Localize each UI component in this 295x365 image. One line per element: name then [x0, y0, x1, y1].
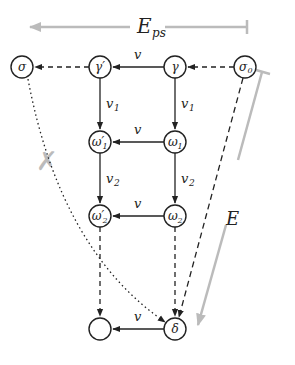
label-v-bottom: v — [134, 309, 142, 324]
svg-text:2: 2 — [101, 216, 107, 225]
svg-text:2: 2 — [176, 216, 182, 225]
edge-sigma-delta-dotted — [28, 79, 165, 322]
e-label: E — [225, 208, 239, 229]
svg-text:1: 1 — [177, 142, 182, 151]
svg-text:σ: σ — [18, 60, 27, 74]
cross-icon: ✗ — [36, 146, 58, 176]
svg-text:2: 2 — [188, 178, 195, 188]
eps-subscript: ps — [152, 26, 166, 40]
label-v2-left: v — [106, 171, 114, 186]
eps-label: E — [136, 14, 152, 38]
svg-text:1: 1 — [114, 103, 120, 113]
svg-text:γ: γ — [171, 60, 179, 74]
svg-text:1: 1 — [102, 142, 107, 151]
label-v-low: v — [134, 196, 142, 211]
svg-text:δ: δ — [171, 322, 178, 336]
svg-text:γ′: γ′ — [95, 60, 105, 74]
label-v1-right: v — [181, 96, 189, 111]
label-v-mid: v — [134, 122, 142, 137]
node-empty — [89, 318, 111, 340]
label-v1-left: v — [106, 96, 114, 111]
eps-arrow: E ps — [30, 14, 247, 40]
diagram-canvas: E ps E ✗ v v v v v 1 v 1 v 2 — [0, 0, 295, 365]
label-v2-right: v — [181, 171, 189, 186]
svg-text:0: 0 — [247, 66, 252, 75]
svg-text:1: 1 — [189, 103, 195, 113]
label-v-top: v — [134, 47, 142, 62]
svg-text:2: 2 — [113, 178, 120, 188]
e-arrow: E — [198, 70, 270, 325]
